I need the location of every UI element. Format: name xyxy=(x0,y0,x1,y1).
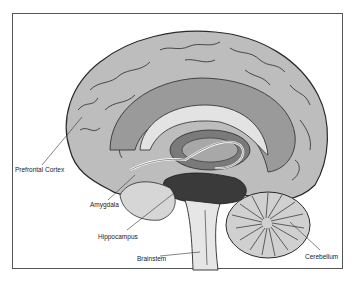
label-cerebellum: Cerebellum xyxy=(305,253,338,260)
brainstem xyxy=(185,200,220,270)
cerebellum-shape xyxy=(226,192,310,258)
label-prefrontal-cortex: Prefrontal Cortex xyxy=(15,166,64,173)
temporal-lobe xyxy=(120,182,175,220)
brain-illustration xyxy=(0,0,356,285)
label-amygdala: Amygdala xyxy=(90,201,119,208)
label-brainstem: Brainstem xyxy=(137,255,166,262)
label-hippocampus: Hippocampus xyxy=(98,233,138,240)
